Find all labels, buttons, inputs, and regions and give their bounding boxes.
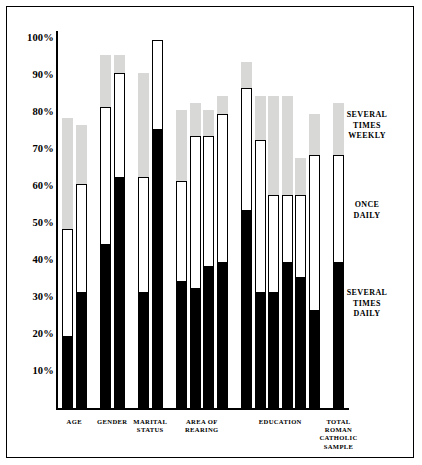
label-line: TOTAL <box>299 418 379 426</box>
bar-stacked-column <box>152 40 163 410</box>
segment-several-times-weekly <box>241 62 252 88</box>
segment-several-times-daily <box>282 262 293 410</box>
bar-stacked-column <box>76 125 87 410</box>
segment-once-daily <box>217 114 228 262</box>
segment-several-times-daily <box>309 310 320 410</box>
plot-area <box>56 25 356 410</box>
segment-several-times-weekly <box>203 110 214 136</box>
segment-once-daily <box>295 195 306 276</box>
label-line: AREA OF <box>162 418 242 426</box>
label-line: ROMAN <box>299 426 379 434</box>
bar-stacked-column <box>217 96 228 411</box>
y-axis-tick-label: 50% <box>10 218 54 228</box>
segment-several-times-daily <box>255 292 266 410</box>
y-axis-tick-label: 40% <box>10 255 54 265</box>
segment-once-daily <box>114 73 125 177</box>
segment-several-times-weekly <box>282 96 293 196</box>
bar-stacked-column <box>268 96 279 411</box>
bar-stacked-column <box>241 62 252 410</box>
chart-figure: 100%90%80%70%60%50%40%30%20%10% AGEGENDE… <box>6 6 414 458</box>
legend-label-line: ONCE <box>331 200 403 211</box>
bar-stacked-column <box>255 96 266 411</box>
segment-several-times-daily <box>217 262 228 410</box>
y-axis-tick-label: 100% <box>10 33 54 43</box>
x-axis-category-label-area-of-rearing: AREA OFREARING <box>162 418 242 434</box>
x-axis-category-label-total: TOTALROMANCATHOLICSAMPLE <box>299 418 379 451</box>
segment-several-times-weekly <box>76 125 87 184</box>
segment-once-daily <box>309 155 320 310</box>
legend-entry-several_times_weekly: SEVERALTIMESWEEKLY <box>331 110 403 142</box>
segment-several-times-weekly <box>268 96 279 196</box>
segment-several-times-daily <box>241 210 252 410</box>
segment-once-daily <box>190 136 201 288</box>
y-axis-tick-label: 60% <box>10 181 54 191</box>
bar-stacked-column <box>176 110 187 410</box>
legend-label-line: WEEKLY <box>331 131 403 142</box>
segment-several-times-weekly <box>100 55 111 107</box>
segment-several-times-daily <box>203 266 214 410</box>
segment-several-times-daily <box>100 244 111 411</box>
segment-once-daily <box>282 195 293 262</box>
segment-several-times-daily <box>62 336 73 410</box>
legend-label-line: SEVERAL <box>331 110 403 121</box>
segment-several-times-daily <box>152 129 163 410</box>
y-axis-tick-label: 90% <box>10 70 54 80</box>
y-axis-tick-label: 10% <box>10 366 54 376</box>
y-axis-tick-label: 30% <box>10 292 54 302</box>
segment-several-times-daily <box>295 277 306 410</box>
bar-stacked-column <box>282 96 293 411</box>
segment-several-times-daily <box>176 281 187 411</box>
segment-several-times-daily <box>190 288 201 410</box>
legend-entry-once_daily: ONCEDAILY <box>331 200 403 221</box>
segment-several-times-weekly <box>190 103 201 136</box>
segment-several-times-daily <box>138 292 149 410</box>
segment-once-daily <box>138 177 149 292</box>
bar-stacked-column <box>138 73 149 410</box>
segment-once-daily <box>76 184 87 291</box>
label-line: SAMPLE <box>299 443 379 451</box>
bar-stacked-column <box>190 103 201 410</box>
label-line: REARING <box>162 426 242 434</box>
legend-label-line: DAILY <box>331 309 403 320</box>
y-axis-tick-label: 70% <box>10 144 54 154</box>
segment-once-daily <box>241 88 252 210</box>
segment-several-times-weekly <box>217 96 228 115</box>
segment-several-times-weekly <box>62 118 73 229</box>
bar-stacked-column <box>333 103 344 410</box>
bar-stacked-column <box>62 118 73 410</box>
segment-several-times-weekly <box>138 73 149 177</box>
segment-several-times-daily <box>76 292 87 410</box>
segment-once-daily <box>100 107 111 244</box>
legend-label-line: DAILY <box>331 211 403 222</box>
label-line: CATHOLIC <box>299 434 379 442</box>
segment-several-times-daily <box>333 262 344 410</box>
y-axis: 100%90%80%70%60%50%40%30%20%10% <box>7 7 54 459</box>
y-axis-tick-label: 80% <box>10 107 54 117</box>
bar-stacked-column <box>309 114 320 410</box>
legend-label-line: SEVERAL <box>331 288 403 299</box>
segment-several-times-weekly <box>295 158 306 195</box>
bar-stacked-column <box>203 110 214 410</box>
segment-several-times-weekly <box>176 110 187 180</box>
segment-several-times-daily <box>268 292 279 410</box>
segment-several-times-daily <box>114 177 125 410</box>
legend-label-line: TIMES <box>331 299 403 310</box>
segment-once-daily <box>268 195 279 291</box>
segment-several-times-weekly <box>114 55 125 74</box>
segment-once-daily <box>255 140 266 292</box>
bar-stacked-column <box>100 55 111 410</box>
segment-once-daily <box>152 40 163 129</box>
segment-once-daily <box>176 181 187 281</box>
segment-once-daily <box>62 229 73 336</box>
segment-once-daily <box>203 136 214 266</box>
legend-label-line: TIMES <box>331 121 403 132</box>
legend-entry-several_times_daily: SEVERALTIMESDAILY <box>331 288 403 320</box>
bar-stacked-column <box>114 55 125 410</box>
segment-several-times-weekly <box>309 114 320 155</box>
bar-stacked-column <box>295 158 306 410</box>
segment-several-times-weekly <box>255 96 266 140</box>
y-axis-tick-label: 20% <box>10 329 54 339</box>
